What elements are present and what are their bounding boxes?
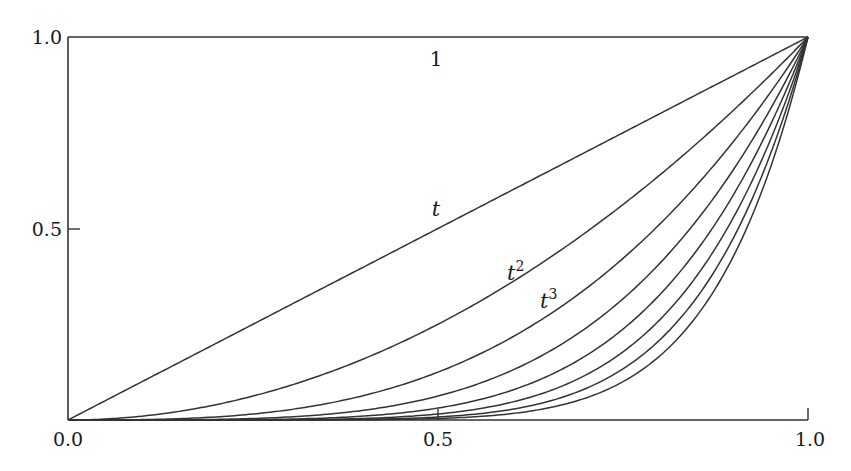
x-tick-label-0.0: 0.0 [53, 428, 83, 450]
y-tick-label-0.5: 0.5 [32, 218, 62, 240]
power-functions-chart: 1.0 0.5 0.0 0.5 1.0 1 t t2 t3 [0, 0, 851, 471]
curve-label-t2: t2 [507, 258, 524, 285]
curve-t [68, 37, 808, 420]
x-tick-label-1.0: 1.0 [795, 428, 825, 450]
curve-label-1: 1 [430, 47, 443, 71]
curve-label-t: t [432, 197, 441, 221]
y-tick-label-1.0: 1.0 [32, 26, 62, 48]
curves-group [68, 37, 808, 420]
curve-label-t3: t3 [540, 286, 557, 313]
x-tick-label-0.5: 0.5 [423, 428, 453, 450]
